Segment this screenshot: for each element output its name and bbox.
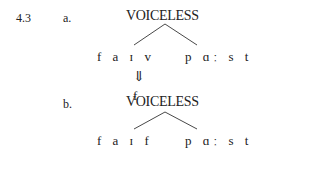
double-down-arrow-icon: ⇓ bbox=[133, 70, 145, 84]
word-five-b: f a ɪ f bbox=[97, 134, 153, 147]
word-past-a: p ɑː s t bbox=[185, 50, 252, 63]
label-b: b. bbox=[63, 98, 72, 110]
word-five-a: f a ɪ v bbox=[97, 50, 155, 63]
word-past-b: p ɑː s t bbox=[185, 134, 252, 147]
feature-voiceless-b: VOICELESS bbox=[126, 95, 199, 109]
